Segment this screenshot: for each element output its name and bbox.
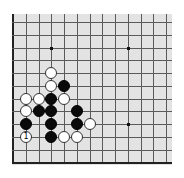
grid-line-vertical	[115, 14, 116, 163]
grid-line-horizontal	[12, 35, 172, 36]
white-stone[interactable]	[71, 131, 83, 143]
grid-line-vertical	[141, 14, 142, 163]
white-stone[interactable]	[58, 93, 70, 105]
grid-line-horizontal	[12, 60, 172, 61]
board-edge-left	[12, 14, 14, 163]
black-stone[interactable]	[45, 105, 57, 117]
white-stone[interactable]	[20, 105, 32, 117]
star-point	[127, 47, 130, 50]
white-stone[interactable]	[58, 131, 70, 143]
grid-line-vertical	[128, 14, 129, 163]
black-stone[interactable]	[33, 105, 45, 117]
black-stone[interactable]	[45, 118, 57, 130]
black-stone[interactable]	[71, 105, 83, 117]
grid-line-horizontal	[12, 22, 172, 23]
go-board[interactable]: 1	[12, 14, 172, 165]
black-stone[interactable]	[45, 131, 57, 143]
grid-line-horizontal	[12, 73, 172, 74]
grid-line-vertical	[39, 14, 40, 163]
grid-line-horizontal	[12, 137, 172, 138]
grid-line-horizontal	[12, 86, 172, 87]
white-stone[interactable]	[84, 118, 96, 130]
black-stone[interactable]	[20, 118, 32, 130]
white-stone[interactable]	[45, 80, 57, 92]
grid-line-vertical	[90, 14, 91, 163]
grid-line-horizontal	[12, 48, 172, 49]
board-edge-bottom	[12, 162, 172, 164]
white-stone[interactable]	[45, 67, 57, 79]
star-point	[50, 47, 53, 50]
black-stone[interactable]	[45, 93, 57, 105]
grid-line-vertical	[166, 14, 167, 163]
white-stone-marked[interactable]: 1	[20, 131, 32, 143]
white-stone[interactable]	[20, 93, 32, 105]
grid-line-vertical	[153, 14, 154, 163]
grid-line-horizontal	[12, 150, 172, 151]
black-stone[interactable]	[58, 80, 70, 92]
white-stone[interactable]	[33, 93, 45, 105]
grid-line-vertical	[102, 14, 103, 163]
black-stone[interactable]	[71, 118, 83, 130]
star-point	[127, 123, 130, 126]
